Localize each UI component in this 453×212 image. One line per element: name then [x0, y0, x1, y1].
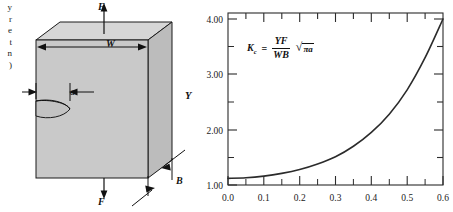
force-bottom-label: F	[98, 196, 105, 207]
fracture-toughness-formula: Kc = YF WB √ πa	[247, 36, 314, 60]
x-tick-label: 0.6	[437, 193, 449, 203]
formula-equals: =	[262, 43, 268, 54]
x-tick-label: 0.5	[401, 193, 413, 203]
x-tick-label: 0.4	[365, 193, 377, 203]
x-tick-label: 0.2	[294, 193, 306, 203]
y-tick-label: 1.00	[206, 181, 223, 191]
force-top-label: F	[98, 1, 105, 12]
y-tick-label: 4.00	[206, 15, 223, 25]
y-tick-label: 2.00	[206, 126, 223, 136]
chart-svg: 4.00 3.00 2.00 1.00 0.0 0.1 0.2 0.3 0.4 …	[180, 0, 453, 212]
formula-fraction: YF WB	[272, 36, 290, 60]
x-tick-label: 0.3	[330, 193, 342, 203]
y-tick-label: 3.00	[206, 70, 223, 80]
y-axis-title: Y	[185, 90, 193, 101]
x-tick-labels: 0.0 0.1 0.2 0.3 0.4 0.5 0.6	[222, 193, 449, 203]
formula-lhs: Kc	[247, 42, 257, 55]
thickness-arrow-lower-shaft	[132, 190, 152, 206]
x-tick-label: 0.0	[222, 193, 234, 203]
specimen-diagram: F F W a B	[22, 0, 187, 212]
width-label: W	[106, 38, 115, 49]
block-side-face	[148, 22, 172, 178]
y-tick-labels: 4.00 3.00 2.00 1.00	[206, 15, 223, 191]
radical-sign-icon: √	[296, 42, 303, 52]
formula-denominator: WB	[272, 48, 290, 61]
crack-length-label: a	[70, 87, 75, 97]
formula-numerator: YF	[274, 36, 289, 47]
figure-root: y r e t n )	[0, 0, 453, 212]
formula-radical: √ πa	[296, 42, 314, 54]
y-factor-chart: 4.00 3.00 2.00 1.00 0.0 0.1 0.2 0.3 0.4 …	[180, 0, 453, 212]
specimen-svg	[22, 0, 187, 212]
formula-radicand: πa	[302, 43, 313, 54]
margin-text: y r e t n )	[0, 2, 12, 71]
x-tick-label: 0.1	[258, 193, 270, 203]
